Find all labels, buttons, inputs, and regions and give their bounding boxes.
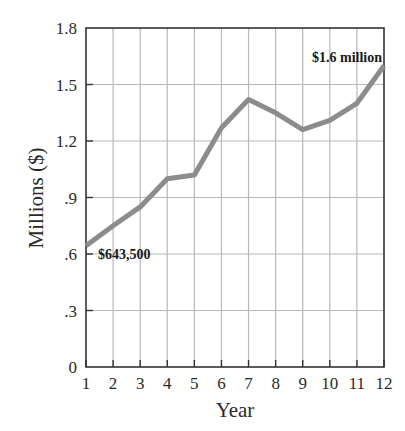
x-tick-label: 3 xyxy=(136,374,145,393)
x-tick-label: 10 xyxy=(321,374,338,393)
y-tick-label: 1.5 xyxy=(56,76,77,95)
x-axis-title: Year xyxy=(216,398,255,422)
x-tick-label: 8 xyxy=(271,374,280,393)
x-tick-label: 1 xyxy=(82,374,91,393)
line-chart: 123456789101112 0.3.6.91.21.51.8 $643,50… xyxy=(0,0,405,431)
annotation-end-value: $1.6 million xyxy=(312,50,382,65)
x-tick-label: 9 xyxy=(298,374,307,393)
y-tick-label: 1.8 xyxy=(56,19,77,38)
x-tick-label: 6 xyxy=(217,374,226,393)
x-tick-label: 4 xyxy=(163,374,172,393)
annotation-start-value: $643,500 xyxy=(98,247,151,262)
x-tick-label: 11 xyxy=(349,374,365,393)
x-tick-label: 5 xyxy=(190,374,199,393)
y-tick-label: 0 xyxy=(69,358,78,377)
y-tick-label: .9 xyxy=(64,189,77,208)
x-tick-label: 7 xyxy=(244,374,253,393)
x-axis-ticks: 123456789101112 xyxy=(82,360,393,393)
y-tick-label: .6 xyxy=(64,245,77,264)
series-line xyxy=(86,66,384,246)
y-axis-ticks: 0.3.6.91.21.51.8 xyxy=(56,19,93,377)
y-tick-label: .3 xyxy=(64,302,77,321)
x-tick-label: 2 xyxy=(109,374,118,393)
grid-lines xyxy=(86,28,384,367)
x-tick-label: 12 xyxy=(376,374,393,393)
y-tick-label: 1.2 xyxy=(56,132,77,151)
data-series xyxy=(86,66,384,246)
y-axis-title: Millions ($) xyxy=(24,148,48,249)
